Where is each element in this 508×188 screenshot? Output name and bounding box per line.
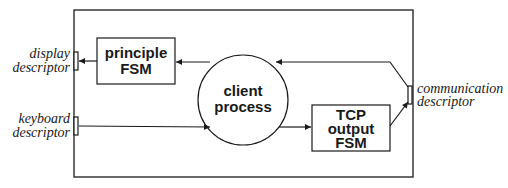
client-process-node: client process <box>198 55 288 145</box>
edge-communication-to-client <box>276 62 408 87</box>
principle-fsm-node: principle FSM <box>97 38 175 84</box>
client-process-label-2: process <box>214 98 272 115</box>
diagram-canvas: principle FSM client process TCP output … <box>0 0 508 188</box>
principle-fsm-label-1: principle <box>105 44 168 61</box>
keyboard-descriptor-label-2: descriptor <box>12 125 70 140</box>
principle-fsm-label-2: FSM <box>120 60 152 77</box>
display-descriptor-label-2: descriptor <box>12 60 70 75</box>
communication-descriptor-port <box>408 86 412 104</box>
keyboard-descriptor-label-1: keyboard <box>18 111 71 126</box>
display-descriptor-label-1: display <box>30 46 71 61</box>
keyboard-descriptor-port <box>74 117 78 135</box>
communication-descriptor-label-2: descriptor <box>417 94 475 109</box>
display-descriptor-port <box>74 52 78 70</box>
edge-tcp-to-communication <box>390 102 408 126</box>
edge-keyboard-to-client <box>79 126 210 127</box>
tcp-output-fsm-node: TCP output FSM <box>312 105 390 151</box>
client-process-label-1: client <box>223 82 262 99</box>
tcp-fsm-label-3: FSM <box>335 134 367 151</box>
